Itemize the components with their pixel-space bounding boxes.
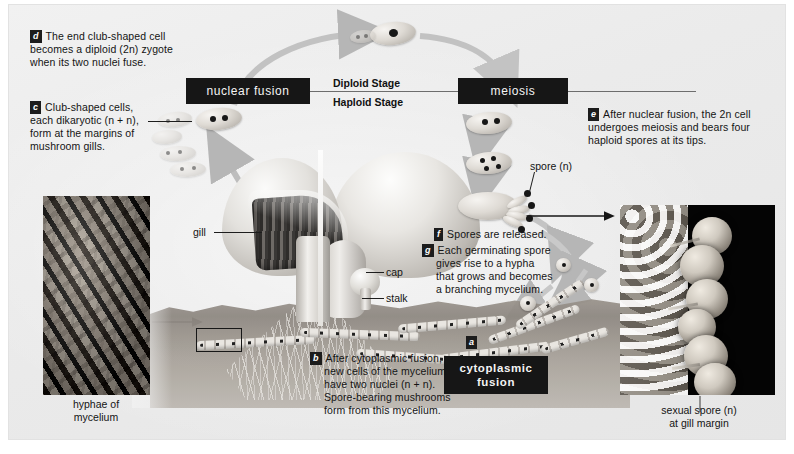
step-letter-g: g [422, 244, 434, 257]
stage-divider-left [310, 91, 458, 92]
stalk-leader-line [362, 298, 384, 299]
step-b-text: bAfter cytoplasmic fusion, new cells of … [310, 352, 500, 417]
step-g-line4: a branching mycelium. [436, 283, 543, 296]
step-e-line3: haploid spores at its tips. [588, 134, 706, 146]
nuclear-fusion-label: nuclear fusion [206, 84, 289, 98]
haploid-spore [528, 202, 535, 209]
step-b-line3: have two nuclei (n + n). [324, 378, 435, 391]
sem-caption-line2: at gill margin [669, 417, 729, 429]
cell-nucleus [484, 166, 489, 171]
spore-blob [694, 363, 736, 395]
cap-leader-line [366, 272, 384, 273]
cell-nucleus [491, 156, 496, 161]
step-c-line4: mushroom gills. [30, 140, 105, 152]
cell-nucleus [180, 167, 184, 171]
hyphae-micrograph-photo [43, 196, 150, 395]
spore-callout-label: spore (n) [530, 160, 572, 172]
step-e-text: eAfter nuclear fusion, the 2n cell under… [588, 108, 788, 147]
spore-nucleus [526, 301, 530, 305]
step-b-line1: After cytoplasmic fusion, [326, 352, 442, 364]
sexual-spore-sem-photo [620, 205, 775, 395]
step-d-line2: becomes a diploid (2n) zygote [30, 43, 173, 55]
nuclear-fusion-box[interactable]: nuclear fusion [186, 78, 310, 104]
sem-caption-line1: sexual spore (n) [661, 404, 736, 416]
magnified-area-box [196, 328, 242, 352]
hyphae-caption-line1: hyphae of [73, 398, 119, 410]
step-letter-d: d [30, 30, 42, 43]
step-g-line2: gives rise to a hypha [436, 257, 534, 270]
meiosis-label: meiosis [491, 84, 536, 98]
haploid-spore [526, 215, 533, 222]
cell-nucleus [496, 164, 501, 169]
cell-nucleus [222, 115, 228, 121]
step-d-line3: when its two nuclei fuse. [30, 56, 146, 68]
cell-nucleus [482, 119, 488, 125]
step-letter-a: a [466, 336, 477, 349]
stage-divider-right [568, 91, 696, 92]
step-e-line2: undergoes meiosis and bears four [588, 121, 750, 133]
step-g-line1: Each germinating spore [438, 244, 551, 256]
cutaway-split [318, 150, 323, 326]
cell-nucleus [192, 166, 196, 170]
step-b-line5: form from this mycelium. [324, 404, 441, 417]
young-mushroom-stalk [360, 288, 371, 310]
step-letter-e: e [588, 108, 599, 121]
cell-nucleus [364, 34, 368, 38]
sem-photo-caption: sexual spore (n) at gill margin [624, 404, 774, 430]
step-b-line4: Spore-bearing mushrooms [324, 391, 451, 404]
cell-nucleus [210, 116, 216, 122]
step-c-leader-line [148, 121, 192, 122]
diploid-stage-label: Diploid Stage [333, 77, 400, 89]
meiosis-box[interactable]: meiosis [458, 78, 568, 104]
cap-callout-label: cap [386, 266, 403, 278]
spore-nucleus [590, 283, 594, 287]
step-c-line2: each dikaryotic (n + n), [30, 114, 139, 126]
step-e-line1: After nuclear fusion, the 2n cell [603, 108, 750, 120]
zygote-nucleus [389, 29, 398, 37]
cell-nucleus [178, 150, 182, 154]
cell-nucleus [356, 35, 360, 39]
step-c-text: cClub-shaped cells, each dikaryotic (n +… [30, 101, 170, 153]
step-c-line1: Club-shaped cells, [45, 101, 133, 113]
step-letter-f: f [434, 228, 443, 241]
step-b-line2: new cells of the mycelium [324, 365, 446, 378]
cell-nucleus [480, 158, 485, 163]
cell-nucleus [494, 118, 500, 124]
step-f-line1: Spores are released. [447, 228, 546, 240]
stalk-callout-label: stalk [386, 292, 408, 304]
step-g-text: gEach germinating spore gives rise to a … [422, 244, 582, 296]
hyphae-photo-caption: hyphae of mycelium [30, 398, 162, 424]
figure-canvas: nuclear fusion meiosis cytoplasmic fusio… [0, 0, 794, 454]
step-d-line1: The end club-shaped cell [46, 30, 166, 42]
step-letter-c: c [30, 101, 41, 114]
hyphae-caption-line2: mycelium [74, 411, 118, 423]
step-f-text: fSpores are released. [434, 228, 594, 241]
gill-callout-label: gill [193, 226, 206, 238]
haploid-stage-label: Haploid Stage [333, 96, 403, 108]
step-d-text: dThe end club-shaped cell becomes a dipl… [30, 30, 260, 69]
step-letter-b: b [310, 352, 322, 365]
step-g-line3: that grows and becomes [436, 270, 553, 283]
mushroom-stem [296, 236, 330, 322]
gill-leader-line [214, 232, 262, 233]
step-c-line3: form at the margins of [30, 127, 134, 139]
